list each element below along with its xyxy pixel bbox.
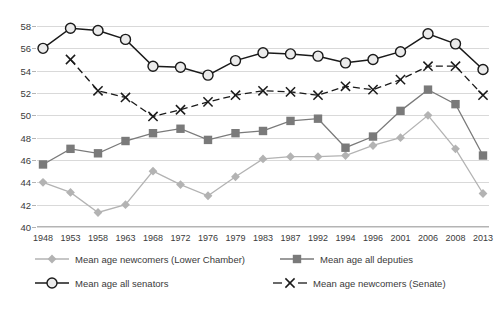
data-point	[451, 100, 459, 108]
data-point	[423, 29, 433, 39]
x-tick-label: 1948	[33, 233, 53, 243]
legend-label: Mean age newcomers (Senate)	[313, 278, 446, 289]
data-point	[259, 127, 267, 135]
legend-label: Mean age newcomers (Lower Chamber)	[75, 254, 245, 265]
data-point	[176, 180, 185, 189]
data-point	[286, 152, 295, 161]
data-point	[396, 47, 406, 57]
data-point	[369, 132, 377, 140]
data-point	[66, 188, 75, 197]
data-point	[93, 25, 103, 35]
x-tick-label: 2001	[390, 233, 410, 243]
y-tick-mark	[32, 160, 36, 161]
y-tick-mark	[32, 71, 36, 72]
legend-swatch-icon	[273, 277, 307, 289]
data-point	[451, 39, 461, 49]
data-point	[66, 23, 76, 33]
data-point	[121, 137, 129, 145]
data-point	[341, 151, 350, 160]
chart-legend: Mean age newcomers (Lower Chamber)Mean a…	[25, 253, 485, 303]
data-point	[94, 208, 103, 217]
y-tick-mark	[32, 182, 36, 183]
y-tick-mark	[32, 26, 36, 27]
data-point	[258, 48, 268, 58]
x-tick-label: 1983	[253, 233, 273, 243]
y-tick-mark	[32, 227, 36, 228]
data-point	[286, 49, 296, 59]
y-tick-mark	[32, 138, 36, 139]
data-point	[231, 56, 241, 66]
data-point	[149, 129, 157, 137]
x-tick-label: 2013	[473, 233, 493, 243]
y-tick-mark	[32, 205, 36, 206]
x-tick-label: 1987	[280, 233, 300, 243]
plot-area: 40424446485052545658 1948195319581963196…	[37, 26, 489, 227]
legend-item-square[interactable]: Mean age all deputies	[280, 253, 413, 265]
y-tick-mark	[32, 115, 36, 116]
data-point	[396, 107, 404, 115]
legend-item-diamond[interactable]: Mean age newcomers (Lower Chamber)	[35, 253, 245, 265]
data-point	[286, 117, 294, 125]
x-tick-label: 1958	[88, 233, 108, 243]
data-point	[203, 70, 213, 80]
legend-swatch-icon	[35, 253, 69, 265]
y-tick-label: 40	[20, 222, 31, 233]
legend-swatch-icon	[35, 277, 69, 289]
data-point	[479, 189, 488, 198]
x-tick-label: 1992	[308, 233, 328, 243]
x-tick-label: 2006	[418, 233, 438, 243]
y-tick-mark	[32, 93, 36, 94]
legend-swatch-icon	[280, 253, 314, 265]
data-point	[66, 145, 74, 153]
series-line	[71, 60, 484, 117]
x-tick-label: 1963	[115, 233, 135, 243]
y-tick-label: 50	[20, 110, 31, 121]
data-point	[39, 160, 47, 168]
series-2	[38, 23, 488, 80]
data-point	[259, 154, 268, 163]
y-tick-label: 58	[20, 21, 31, 32]
data-point	[94, 149, 102, 157]
data-point	[148, 61, 158, 71]
y-tick-label: 56	[20, 43, 31, 54]
x-tick-label: 1972	[170, 233, 190, 243]
data-point	[176, 125, 184, 133]
data-point	[478, 65, 488, 75]
data-point	[204, 191, 213, 200]
data-point	[231, 129, 239, 137]
data-point	[314, 152, 323, 161]
x-tick-label: 1976	[198, 233, 218, 243]
data-point	[341, 58, 351, 68]
data-point	[48, 255, 57, 264]
data-point	[204, 136, 212, 144]
gridline	[37, 227, 489, 228]
x-tick-label: 1996	[363, 233, 383, 243]
x-tick-label: 2008	[445, 233, 465, 243]
data-point	[176, 62, 186, 72]
x-tick-label: 1979	[225, 233, 245, 243]
data-point	[424, 85, 432, 93]
data-point	[479, 151, 487, 159]
data-point	[293, 255, 301, 263]
legend-item-circle-open[interactable]: Mean age all senators	[35, 277, 168, 289]
data-point	[231, 172, 240, 181]
legend-label: Mean age all deputies	[320, 254, 413, 265]
y-tick-label: 52	[20, 88, 31, 99]
x-tick-label: 1994	[335, 233, 355, 243]
y-tick-label: 54	[20, 65, 31, 76]
x-tick-label: 1953	[60, 233, 80, 243]
y-tick-label: 48	[20, 132, 31, 143]
data-point	[47, 278, 57, 288]
data-point	[314, 114, 322, 122]
data-point	[38, 43, 48, 53]
y-tick-label: 46	[20, 155, 31, 166]
chart-container: 40424446485052545658 1948195319581963196…	[0, 0, 496, 309]
y-tick-label: 44	[20, 177, 31, 188]
data-point	[313, 51, 323, 61]
y-tick-mark	[32, 48, 36, 49]
data-point	[341, 144, 349, 152]
legend-item-cross[interactable]: Mean age newcomers (Senate)	[273, 277, 446, 289]
y-tick-label: 42	[20, 199, 31, 210]
data-point	[368, 55, 378, 65]
legend-label: Mean age all senators	[75, 278, 168, 289]
